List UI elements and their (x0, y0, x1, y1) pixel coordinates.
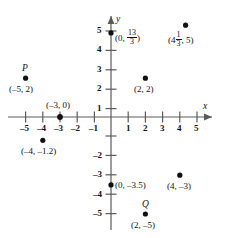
paren-close: ) (137, 33, 140, 43)
x-axis-arrowhead (204, 114, 212, 121)
point-label-neg4-neg1-2: (–4, –1.2) (21, 147, 56, 156)
y-tick-label-4: 4 (97, 45, 102, 54)
coordinate-plane-figure: x y –5 –4 –3 –2 –1 1 2 3 4 5 5 4 3 2 1 –… (0, 0, 228, 238)
point-4-neg3 (177, 173, 182, 178)
y-tick-label-neg3: –3 (93, 170, 102, 179)
x-tick-label-neg4: –4 (37, 124, 46, 133)
point-Q (143, 211, 148, 216)
point-label-neg5-2: (–5, 2) (9, 85, 33, 94)
y-axis-label: y (116, 14, 120, 24)
point-neg3-0 (57, 114, 63, 120)
point-label-neg3-0: (–3, 0) (46, 101, 70, 110)
y-tick-label-neg2: –2 (93, 151, 102, 160)
mixed-number-whole: (4 (168, 35, 176, 45)
x-axis-label: x (203, 101, 207, 111)
data-points (23, 23, 188, 217)
point-4-1-3-5 (183, 23, 188, 28)
x-tick-label-neg5: –5 (20, 124, 29, 133)
axes-and-points-canvas (0, 0, 228, 238)
x-tick-label-4: 4 (177, 124, 182, 133)
paren-close: , 5) (182, 35, 194, 45)
x-tick-label-neg3: –3 (54, 124, 63, 133)
y-axis-arrowhead (108, 16, 115, 24)
point-label-0-13-3: (0, 133) (115, 29, 140, 46)
point-label-4-1-3-5: (413, 5) (168, 31, 194, 48)
y-tick-label-3: 3 (97, 65, 102, 74)
point-2-2 (143, 76, 148, 81)
fraction-13-over-3: 133 (127, 29, 137, 46)
paren-open: (0, (115, 33, 127, 43)
point-0-neg3-5 (108, 182, 113, 187)
point-0-13-3 (108, 30, 113, 35)
point-label-2-2: (2, 2) (134, 85, 154, 94)
x-tick-label-3: 3 (160, 124, 165, 133)
x-tick-label-5: 5 (194, 124, 199, 133)
y-tick-label-neg4: –4 (93, 190, 102, 199)
y-tick-label-2: 2 (97, 84, 102, 93)
y-tick-label-neg5: –5 (93, 209, 102, 218)
point-name-Q: Q (142, 199, 149, 209)
fraction-denominator: 3 (127, 37, 137, 46)
y-tick-label-1: 1 (97, 104, 102, 113)
point-label-2-neg5: (2, –5) (131, 221, 155, 230)
x-tick-label-neg2: –2 (71, 124, 80, 133)
fraction-numerator: 13 (127, 29, 137, 37)
y-tick-label-5: 5 (97, 26, 102, 35)
point-P (23, 76, 28, 81)
point-name-P: P (22, 63, 28, 73)
x-tick-label-neg1: –1 (89, 124, 98, 133)
point-label-4-neg3: (4, –3) (167, 182, 191, 191)
point-neg4-neg1-2 (40, 138, 45, 143)
point-label-0-neg3-5: (0, –3.5) (115, 181, 146, 190)
x-tick-label-1: 1 (126, 124, 131, 133)
x-tick-label-2: 2 (143, 124, 148, 133)
